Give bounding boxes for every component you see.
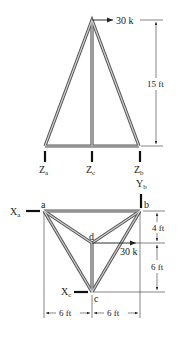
height-dimension-label: 15 ft <box>147 79 164 89</box>
elevation-members <box>45 20 139 146</box>
plan-load-label: 30 k <box>120 246 138 257</box>
label-xa: Xa <box>10 206 21 219</box>
label-za: Za <box>39 164 49 177</box>
node-b-label: b <box>144 199 149 210</box>
label-zb: Zb <box>134 164 144 177</box>
label-yb: Yb <box>136 178 147 191</box>
height-dimension: 15 ft <box>140 20 164 146</box>
dim-6ft-left-label: 6 ft <box>59 308 72 318</box>
truss-diagram: 30 k 15 ft Za Zc Zb <box>0 0 186 339</box>
elevation-supports: Za Zc Zb <box>39 151 144 177</box>
elevation-load-arrow: 30 k <box>92 15 134 26</box>
plan-view: a b c d Xa Yb Xc 30 k 4 ft 6 f <box>10 178 165 318</box>
dim-4ft-label: 4 ft <box>152 223 165 233</box>
label-zc: Zc <box>86 164 95 177</box>
dim-6ft-vertical-label: 6 ft <box>151 262 164 272</box>
elevation-load-label: 30 k <box>116 15 134 26</box>
node-c-label: c <box>94 293 99 304</box>
label-xc: Xc <box>61 286 71 299</box>
node-d-label: d <box>89 231 94 242</box>
dim-6ft-right-label: 6 ft <box>107 308 120 318</box>
node-a-label: a <box>41 199 46 210</box>
plan-reactions: Xa Yb Xc <box>10 178 147 299</box>
elevation-view: 30 k 15 ft Za Zc Zb <box>39 15 164 177</box>
